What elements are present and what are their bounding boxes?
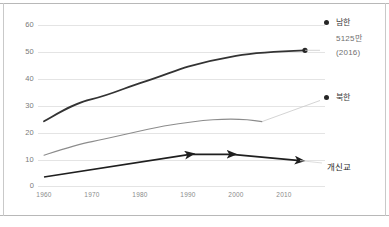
- series-line-south-korea: [44, 50, 305, 121]
- series-line-protestant-segment-1: [44, 154, 190, 177]
- plot-area: 60 50 40 30 20 10 0 1960 1970 1980 1990 …: [0, 0, 389, 227]
- series-line-north-korea: [44, 119, 262, 155]
- series-line-protestant-segment-3: [232, 154, 300, 160]
- series-layer: [0, 0, 389, 227]
- legend-dot-south-korea: [324, 20, 329, 25]
- legend-leader-line-protestant: [300, 161, 322, 163]
- legend-label-south-korea: 남한: [336, 16, 350, 27]
- legend-dot-north-korea: [324, 95, 329, 100]
- legend-value-south-korea: 5125만: [336, 32, 362, 43]
- legend-leader-line-north-korea: [262, 101, 320, 122]
- series-label-protestant: 개신교: [327, 160, 352, 172]
- legend-year-south-korea: (2016): [336, 48, 360, 57]
- chart-page: 60 50 40 30 20 10 0 1960 1970 1980 1990 …: [0, 0, 389, 227]
- legend-label-north-korea: 북한: [336, 91, 350, 102]
